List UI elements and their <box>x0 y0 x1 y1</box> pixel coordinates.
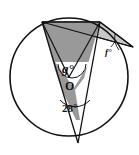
inscribed-angle-label: 28° <box>62 103 77 114</box>
circle-diagram-svg <box>0 0 139 155</box>
exterior-angle-label: f° <box>105 48 112 57</box>
center-point-dot <box>68 76 70 78</box>
geometry-figure: g° f° O 28° <box>0 0 139 155</box>
circle-center-label: O <box>65 80 74 92</box>
central-angle-label: g° <box>62 62 74 75</box>
